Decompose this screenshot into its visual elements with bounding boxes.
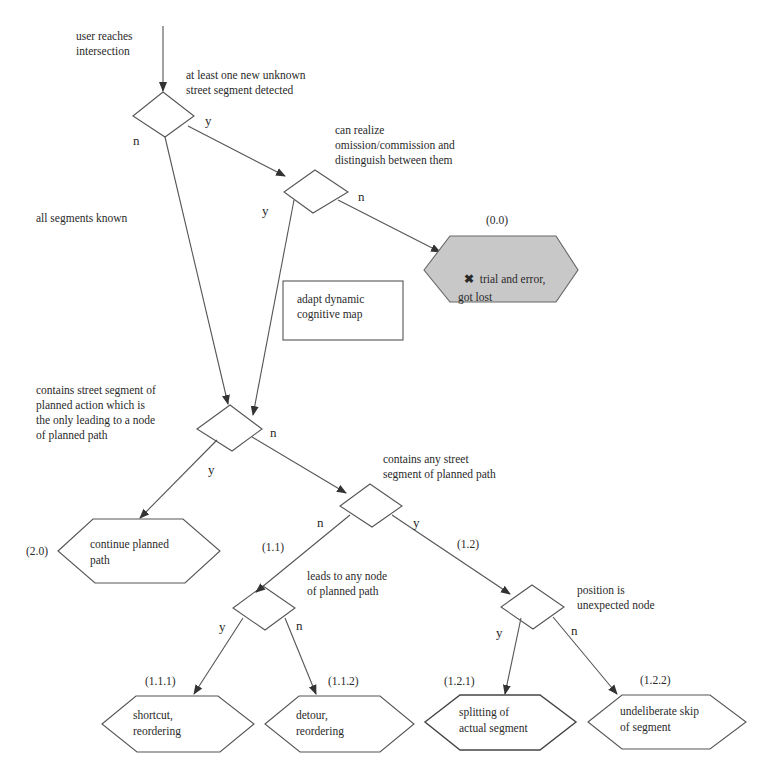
outcome-code-1-1-1: (1.1.1) [145,674,176,688]
decision-diamond-d6 [501,585,564,629]
decision-diamond-d4 [340,484,402,527]
outcome-code-2-0: (2.0) [26,544,48,558]
outcome-label-1-2-1: splitting of actual segment [459,704,528,736]
outcome-code-1-2-1: (1.2.1) [444,674,475,688]
outcome-text-0-0: ✖trial and error, got lost [458,252,545,306]
decision-diamond-d3 [197,405,262,451]
edge-d2-no [338,200,440,252]
outcome-code-1-2-2: (1.2.2) [640,673,671,687]
decision-label-d1: at least one new unknown street segment … [186,68,305,98]
decision-diamond-d2 [284,170,348,213]
edge-label-d4-yes: y [413,516,420,530]
edge-d1-no [165,137,228,404]
start-label: user reaches intersection [76,29,133,59]
edge-label-d6-no: n [571,624,578,638]
process-box-label: adapt dynamic cognitive map [297,292,364,322]
edge-label-d3-yes: y [208,463,215,477]
decision-label-d5: leads to any node of planned path [307,569,387,599]
x-mark-icon: ✖ [464,273,474,285]
edge-label-d2-no: n [358,190,365,204]
edge-d3-no [252,437,346,493]
decision-label-d2: can realize omission/commission and dist… [335,123,455,168]
decision-label-d3: contains street segment of planned actio… [36,383,156,443]
decision-diamond-d1 [133,92,194,137]
edge-label-all-known: all segments known [36,211,127,226]
edge-label-d6-yes: y [496,626,503,640]
edge-label-d5-yes: y [219,620,226,634]
edge-label-d4-no: n [317,516,324,530]
edge-label-d1-yes: y [205,114,212,128]
branch-code-1-2: (1.2) [457,537,479,551]
branch-code-1-1: (1.1) [262,540,284,554]
decision-diamond-d5 [233,586,295,630]
outcome-label-1-2-2: undeliberate skip of segment [620,703,699,735]
edge-label-d5-no: n [296,619,303,633]
edge-label-d1-no: n [133,134,140,148]
edge-d6-yes [505,618,521,694]
outcome-label-1-1-1: shortcut, reordering [133,707,181,739]
edge-label-d2-yes: y [262,204,269,218]
edge-d1-yes [188,126,285,176]
decision-label-d6: position is unexpected node [577,583,655,613]
edge-label-d3-no: n [270,426,277,440]
outcome-label-2-0: continue planned path [90,536,169,568]
decision-label-d4: contains any street segment of planned p… [383,452,496,482]
edge-d4-yes [392,515,510,594]
edge-d3-yes [140,440,217,518]
outcome-code-0-0: (0.0) [486,213,508,227]
outcome-code-1-1-2: (1.1.2) [328,674,359,688]
edge-d6-no [553,617,617,694]
outcome-label-1-1-2: detour, reordering [296,707,344,739]
